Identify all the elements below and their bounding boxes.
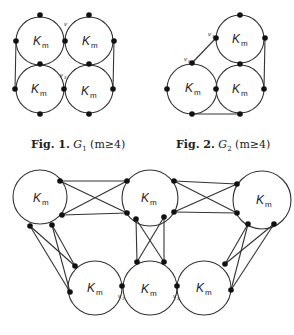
fig3-circle-bottom-mid — [123, 261, 177, 315]
svg-text:K: K — [232, 82, 241, 96]
fig1-caption: Fig. 1. G1 (m≥4) — [31, 138, 125, 153]
svg-text:K: K — [232, 32, 241, 46]
fig2-caption-sub: 2 — [227, 145, 231, 153]
svg-text:m: m — [150, 289, 157, 298]
svg-text:m: m — [96, 288, 103, 297]
fig1-caption-cond: (m≥4) — [90, 138, 125, 151]
fig1-caption-sub: 1 — [82, 145, 86, 153]
svg-text:1: 1 — [122, 296, 124, 301]
svg-text:1: 1 — [212, 34, 214, 39]
svg-text:m: m — [265, 200, 272, 209]
svg-text:m: m — [150, 198, 157, 207]
svg-text:m: m — [241, 89, 248, 98]
svg-text:K: K — [185, 81, 194, 95]
svg-text:m: m — [91, 41, 98, 50]
svg-text:m: m — [42, 41, 49, 50]
svg-text:K: K — [256, 193, 265, 207]
svg-text:m: m — [90, 91, 97, 100]
svg-text:K: K — [141, 191, 150, 205]
svg-text:m: m — [42, 198, 49, 207]
svg-text:K: K — [82, 34, 91, 48]
fig2-caption-graph: G — [218, 138, 227, 151]
fig1-caption-graph: G — [73, 138, 82, 151]
svg-text:v: v — [64, 21, 68, 27]
svg-text:K: K — [81, 84, 90, 98]
graph-diagrams: K K K K K K K K K K K K K m m m m m m m … — [0, 0, 294, 335]
svg-text:K: K — [33, 34, 42, 48]
svg-text:K: K — [196, 281, 205, 295]
svg-text:m: m — [205, 288, 212, 297]
fig2-caption: Fig. 2. G2 (m≥4) — [176, 138, 270, 153]
svg-text:m: m — [241, 39, 248, 48]
fig1-caption-label: Fig. 1. — [31, 138, 70, 151]
svg-text:K: K — [87, 281, 96, 295]
svg-text:m: m — [40, 89, 47, 98]
svg-text:K: K — [31, 82, 40, 96]
fig2-caption-cond: (m≥4) — [235, 138, 270, 151]
svg-text:K: K — [141, 282, 150, 296]
fig2-caption-label: Fig. 2. — [176, 138, 215, 151]
svg-text:K: K — [33, 191, 42, 205]
svg-text:m: m — [194, 88, 201, 97]
